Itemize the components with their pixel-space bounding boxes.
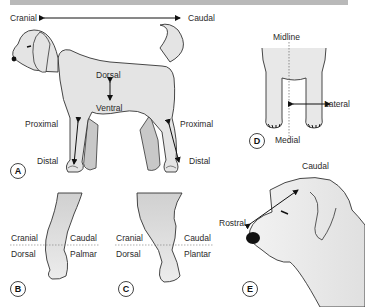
label-ventral: Ventral [96, 104, 122, 113]
label-lateral: Lateral [324, 100, 350, 109]
label-plantar: Plantar [184, 250, 211, 259]
label-dorsal-c: Dorsal [116, 250, 141, 259]
label-dorsal: Dorsal [96, 71, 121, 80]
label-medial: Medial [275, 136, 300, 145]
label-caudal-c: Caudal [184, 234, 211, 243]
panel-badge-c: C [118, 281, 134, 297]
label-dorsal-b: Dorsal [11, 250, 36, 259]
label-proximal-hind: Proximal [180, 120, 213, 129]
dog-head-view [246, 178, 365, 307]
label-cranial-c: Cranial [116, 234, 143, 243]
label-caudal-a: Caudal [188, 14, 215, 23]
label-caudal-b: Caudal [70, 234, 97, 243]
label-caudal-e: Caudal [302, 162, 329, 171]
anatomy-drawing [0, 0, 365, 307]
label-cranial-b: Cranial [11, 234, 38, 243]
panel-badge-d: D [249, 133, 265, 149]
panel-badge-e: E [242, 281, 258, 297]
dog-lateral-view [12, 18, 184, 172]
label-distal-hind: Distal [189, 157, 210, 166]
label-palmar: Palmar [70, 250, 97, 259]
label-midline: Midline [273, 33, 300, 42]
label-proximal-front: Proximal [25, 120, 58, 129]
label-cranial-a: Cranial [10, 14, 37, 23]
panel-badge-a: A [10, 163, 26, 179]
label-distal-front: Distal [37, 157, 58, 166]
label-rostral: Rostral [219, 219, 246, 228]
panel-badge-b: B [10, 281, 26, 297]
forelimbs-cranial-view [262, 42, 330, 140]
